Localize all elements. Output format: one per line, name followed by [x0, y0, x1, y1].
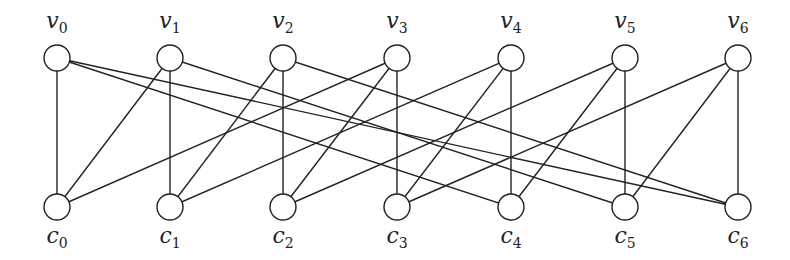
node-c5	[612, 194, 638, 220]
edge-v4-c1	[170, 58, 511, 207]
label-v5: v5	[614, 8, 635, 36]
label-c4: c4	[500, 223, 521, 251]
label-c1: c1	[159, 223, 180, 251]
edge-v5-c2	[283, 58, 625, 207]
node-v1	[157, 45, 183, 71]
node-v2	[270, 45, 296, 71]
edge-v0-c4	[57, 58, 511, 207]
edge-v6-c5	[625, 58, 738, 207]
edge-v6-c3	[397, 58, 738, 207]
label-c2: c2	[272, 223, 293, 251]
label-v0: v0	[46, 8, 67, 36]
label-v4: v4	[500, 8, 521, 36]
label-c6: c6	[727, 223, 748, 251]
label-v1: v1	[159, 8, 180, 36]
node-c4	[498, 194, 524, 220]
label-v6: v6	[727, 8, 748, 36]
node-v3	[384, 45, 410, 71]
label-c0: c0	[46, 223, 67, 251]
label-c3: c3	[386, 223, 407, 251]
node-c0	[44, 194, 70, 220]
edge-v1-c0	[57, 58, 170, 207]
node-v4	[498, 45, 524, 71]
node-c1	[157, 194, 183, 220]
node-v6	[725, 45, 751, 71]
node-c6	[725, 194, 751, 220]
label-v3: v3	[386, 8, 407, 36]
node-c3	[384, 194, 410, 220]
node-c2	[270, 194, 296, 220]
label-v2: v2	[272, 8, 293, 36]
node-v5	[612, 45, 638, 71]
graph-canvas	[0, 0, 790, 260]
label-c5: c5	[614, 223, 635, 251]
node-v0	[44, 45, 70, 71]
edge-v3-c0	[57, 58, 397, 207]
